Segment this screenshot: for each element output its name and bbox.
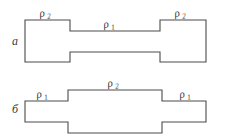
panel-a-outline <box>25 20 206 62</box>
rho-subscript: 1 <box>186 92 191 102</box>
rho-subscript: 2 <box>181 11 187 21</box>
rho-symbol: ρ <box>101 17 109 30</box>
stepped-rod-diagram: а ρ 2 ρ 1 ρ 2 б ρ 1 <box>0 0 231 138</box>
rho-subscript: 1 <box>43 92 48 102</box>
panel-a-group: а ρ 2 ρ 1 ρ 2 <box>12 5 206 62</box>
figure-container: а ρ 2 ρ 1 ρ 2 б ρ 1 <box>0 0 231 138</box>
rho-subscript: 2 <box>46 11 52 21</box>
rho-symbol: ρ <box>177 87 185 100</box>
rho-subscript: 1 <box>110 22 115 32</box>
panel-b-label: б <box>12 102 19 116</box>
panel-b-group: б ρ 1 ρ 2 ρ 1 <box>12 75 206 133</box>
panel-a-label: а <box>12 34 18 48</box>
rho-symbol: ρ <box>37 6 45 19</box>
rho-symbol: ρ <box>105 76 113 89</box>
rho-symbol: ρ <box>172 6 180 19</box>
rho-symbol: ρ <box>34 87 42 100</box>
rho-subscript: 2 <box>114 81 120 91</box>
